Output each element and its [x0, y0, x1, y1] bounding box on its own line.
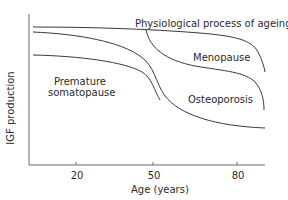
label-premature-line1: Premature — [48, 76, 112, 87]
label-osteoporosis: Osteoporosis — [188, 94, 253, 105]
label-premature-somatopause: Premature somatopause — [48, 76, 112, 98]
label-premature-line2: somatopause — [48, 87, 112, 98]
y-axis-label: IGF production — [5, 71, 16, 144]
label-physiological-ageing: Physiological process of ageing — [135, 18, 288, 29]
x-tick-label-50: 50 — [148, 170, 161, 181]
x-axis-label: Age (years) — [131, 184, 189, 195]
x-tick-label-20: 20 — [71, 170, 84, 181]
x-tick-label-80: 80 — [232, 170, 245, 181]
label-menopause: Menopause — [193, 52, 250, 63]
